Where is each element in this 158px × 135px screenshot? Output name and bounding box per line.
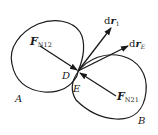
- label-fn12: FN12: [29, 35, 52, 49]
- displacement-dre-arrow: [78, 46, 128, 71]
- displacement-dr1-arrow: [78, 28, 111, 71]
- force-fn12-arrow: [40, 46, 77, 70]
- label-fn21: FN21: [116, 90, 139, 104]
- label-body-a: A: [14, 93, 22, 104]
- label-dr1: dr1: [104, 15, 120, 27]
- contact-forces-diagram: FN12 FN21 dr1 drE D E A B: [0, 0, 158, 135]
- label-point-e: E: [72, 83, 81, 94]
- label-body-b: B: [137, 115, 145, 126]
- force-fn21-arrow: [80, 73, 116, 96]
- label-point-d: D: [61, 70, 70, 81]
- label-dre: drE: [129, 38, 146, 50]
